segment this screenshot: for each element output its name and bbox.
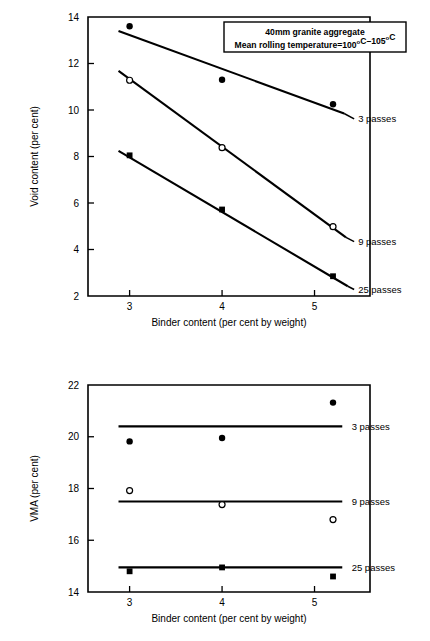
y-tick-label: 16	[68, 535, 80, 546]
data-point-filled-square[interactable]	[330, 574, 336, 580]
data-point-open-circle[interactable]	[127, 488, 133, 494]
series-label: 9 passes	[358, 236, 396, 247]
x-tick-label: 5	[312, 597, 318, 608]
y-tick-label: 14	[68, 12, 80, 23]
series-label: 9 passes	[352, 496, 390, 507]
vma-plot: 1416182022345Binder content (per cent by…	[0, 368, 430, 641]
data-point-filled-square[interactable]	[219, 565, 225, 571]
series-trend-line	[119, 151, 348, 286]
y-tick-label: 14	[68, 587, 80, 598]
data-point-open-circle[interactable]	[219, 145, 225, 151]
series-label: 25 passes	[358, 284, 402, 295]
series-label: 25 passes	[352, 562, 396, 573]
figure-page: 2468101214345Binder content (per cent by…	[0, 0, 430, 641]
data-point-filled-circle[interactable]	[330, 101, 336, 107]
y-tick-label: 8	[73, 151, 79, 162]
void-content-plot: 2468101214345Binder content (per cent by…	[0, 0, 430, 345]
data-point-filled-circle[interactable]	[126, 23, 132, 29]
y-tick-label: 20	[68, 431, 80, 442]
data-point-filled-circle[interactable]	[126, 438, 132, 444]
data-point-filled-square[interactable]	[127, 568, 133, 574]
x-tick-label: 3	[127, 301, 133, 312]
data-point-filled-square[interactable]	[219, 207, 225, 213]
y-tick-label: 12	[68, 58, 80, 69]
series-leader-line	[344, 113, 354, 118]
y-tick-label: 22	[68, 380, 80, 391]
y-tick-label: 10	[68, 105, 80, 116]
data-point-filled-square[interactable]	[330, 273, 336, 279]
y-tick-label: 2	[73, 291, 79, 302]
data-point-open-circle[interactable]	[330, 517, 336, 523]
vma-figure: 1416182022345Binder content (per cent by…	[0, 368, 430, 641]
data-point-open-circle[interactable]	[219, 502, 225, 508]
data-point-filled-square[interactable]	[127, 152, 133, 158]
y-axis-title: VMA (per cent)	[29, 455, 40, 522]
legend-line-1: 40mm granite aggregate	[265, 27, 365, 37]
x-tick-label: 4	[219, 301, 225, 312]
x-axis-title: Binder content (per cent by weight)	[151, 317, 306, 328]
data-point-open-circle[interactable]	[330, 224, 336, 230]
x-tick-label: 4	[219, 597, 225, 608]
void-content-figure: 2468101214345Binder content (per cent by…	[0, 0, 430, 345]
y-tick-label: 4	[73, 244, 79, 255]
data-point-filled-circle[interactable]	[219, 77, 225, 83]
y-axis-title: Void content (per cent)	[29, 106, 40, 207]
data-point-filled-circle[interactable]	[219, 435, 225, 441]
y-tick-label: 18	[68, 483, 80, 494]
y-tick-label: 6	[73, 198, 79, 209]
data-point-open-circle[interactable]	[127, 77, 133, 83]
series-leader-line	[346, 237, 354, 241]
x-tick-label: 5	[312, 301, 318, 312]
series-label: 3 passes	[352, 421, 390, 432]
series-trend-line	[119, 71, 346, 237]
x-axis-title: Binder content (per cent by weight)	[151, 613, 306, 624]
series-label: 3 passes	[358, 113, 396, 124]
x-tick-label: 3	[127, 597, 133, 608]
series-leader-line	[348, 286, 354, 289]
data-point-filled-circle[interactable]	[330, 399, 336, 405]
